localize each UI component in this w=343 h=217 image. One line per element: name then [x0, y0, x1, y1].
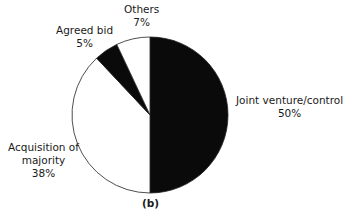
label-acquisition-pct: 38%: [8, 167, 79, 180]
label-others-name: Others: [124, 3, 159, 16]
label-joint-venture: Joint venture/control 50%: [236, 94, 343, 120]
label-agreed-bid-name: Agreed bid: [56, 24, 113, 37]
label-agreed-bid: Agreed bid 5%: [56, 24, 113, 50]
label-joint-venture-pct: 50%: [236, 107, 343, 120]
label-acquisition-line1: Acquisition of: [8, 141, 79, 154]
label-acquisition-line2: majority: [8, 154, 79, 167]
label-others-pct: 7%: [124, 16, 159, 29]
label-others: Others 7%: [124, 3, 159, 29]
pie-slice-joint-venture-control: [150, 37, 228, 193]
label-agreed-bid-pct: 5%: [56, 37, 113, 50]
label-joint-venture-name: Joint venture/control: [236, 94, 343, 107]
chart-caption: (b): [142, 197, 159, 209]
label-acquisition: Acquisition of majority 38%: [8, 141, 79, 180]
